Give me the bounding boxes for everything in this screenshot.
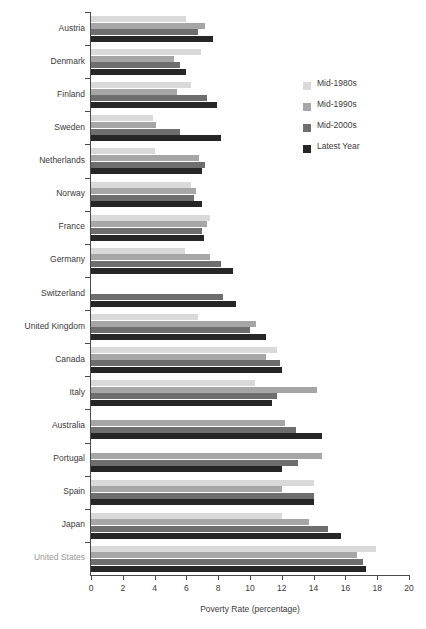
bar-mid-1980s bbox=[91, 480, 314, 486]
y-tick bbox=[85, 78, 90, 79]
category-label-switzerland: Switzerland bbox=[0, 288, 85, 298]
y-tick bbox=[85, 277, 90, 278]
bar-latest-year bbox=[91, 168, 202, 174]
bar-mid-1980s bbox=[91, 215, 210, 221]
bar-mid-2000s bbox=[91, 228, 202, 234]
bar-mid-1980s bbox=[91, 115, 153, 121]
y-tick bbox=[85, 211, 90, 212]
bar-mid-1990s bbox=[91, 188, 196, 194]
bar-latest-year bbox=[91, 533, 341, 539]
bar-mid-2000s bbox=[91, 526, 328, 532]
bar-mid-1980s bbox=[91, 513, 282, 519]
bar-mid-1990s bbox=[91, 519, 309, 525]
bar-mid-1990s bbox=[91, 486, 282, 492]
legend-label: Mid-2000s bbox=[317, 120, 357, 130]
bar-mid-2000s bbox=[91, 162, 205, 168]
x-tick-label: 0 bbox=[79, 583, 103, 593]
y-tick bbox=[85, 476, 90, 477]
bar-mid-1990s bbox=[91, 89, 177, 95]
category-label-denmark: Denmark bbox=[0, 56, 85, 66]
bar-mid-2000s bbox=[91, 460, 298, 466]
bar-mid-2000s bbox=[91, 427, 296, 433]
bar-mid-1990s bbox=[91, 56, 174, 62]
x-tick-label: 16 bbox=[333, 583, 357, 593]
x-tick bbox=[409, 575, 410, 580]
y-tick bbox=[85, 178, 90, 179]
category-label-france: France bbox=[0, 221, 85, 231]
bar-latest-year bbox=[91, 433, 322, 439]
bar-latest-year bbox=[91, 135, 221, 141]
bar-latest-year bbox=[91, 334, 266, 340]
bar-mid-2000s bbox=[91, 95, 207, 101]
bar-mid-1980s bbox=[91, 16, 186, 22]
y-tick bbox=[85, 409, 90, 410]
legend-swatch bbox=[303, 103, 311, 111]
bar-mid-2000s bbox=[91, 327, 250, 333]
x-tick bbox=[123, 575, 124, 580]
category-label-united-kingdom: United Kingdom bbox=[0, 321, 85, 331]
bar-mid-1980s bbox=[91, 546, 376, 552]
bar-mid-1990s bbox=[91, 387, 317, 393]
bar-mid-2000s bbox=[91, 29, 198, 35]
bar-mid-1980s bbox=[91, 248, 185, 254]
legend-swatch bbox=[303, 82, 311, 90]
bar-latest-year bbox=[91, 566, 366, 572]
category-label-netherlands: Netherlands bbox=[0, 155, 85, 165]
x-tick-label: 12 bbox=[270, 583, 294, 593]
bar-mid-1990s bbox=[91, 254, 210, 260]
x-tick bbox=[218, 575, 219, 580]
bar-latest-year bbox=[91, 235, 204, 241]
x-tick-label: 10 bbox=[238, 583, 262, 593]
bar-mid-1980s bbox=[91, 380, 255, 386]
bar-mid-1990s bbox=[91, 122, 156, 128]
bar-mid-2000s bbox=[91, 360, 280, 366]
bar-mid-1990s bbox=[91, 552, 357, 558]
bar-latest-year bbox=[91, 268, 233, 274]
bar-latest-year bbox=[91, 466, 282, 472]
bar-latest-year bbox=[91, 36, 213, 42]
x-axis-title: Poverty Rate (percentage) bbox=[91, 604, 409, 614]
legend-label: Mid-1990s bbox=[317, 99, 357, 109]
y-tick bbox=[85, 111, 90, 112]
poverty-rate-bar-chart: 02468101214161820 AustriaDenmarkFinlandS… bbox=[0, 0, 426, 629]
y-tick bbox=[85, 144, 90, 145]
x-tick bbox=[155, 575, 156, 580]
bar-latest-year bbox=[91, 301, 236, 307]
x-tick-label: 2 bbox=[111, 583, 135, 593]
x-tick-label: 18 bbox=[365, 583, 389, 593]
bar-mid-2000s bbox=[91, 559, 363, 565]
bar-mid-2000s bbox=[91, 195, 194, 201]
bar-mid-1990s bbox=[91, 155, 199, 161]
bar-latest-year bbox=[91, 367, 282, 373]
bar-mid-1980s bbox=[91, 82, 191, 88]
y-tick bbox=[85, 12, 90, 13]
category-label-canada: Canada bbox=[0, 354, 85, 364]
x-tick bbox=[186, 575, 187, 580]
legend-label: Latest Year bbox=[317, 141, 360, 151]
x-tick bbox=[377, 575, 378, 580]
category-label-spain: Spain bbox=[0, 486, 85, 496]
bar-mid-2000s bbox=[91, 129, 180, 135]
bar-latest-year bbox=[91, 201, 202, 207]
plot-area bbox=[91, 12, 409, 575]
legend-swatch bbox=[303, 124, 311, 132]
x-tick bbox=[282, 575, 283, 580]
x-tick bbox=[345, 575, 346, 580]
x-tick bbox=[91, 575, 92, 580]
bar-mid-1980s bbox=[91, 314, 198, 320]
category-label-italy: Italy bbox=[0, 387, 85, 397]
bar-latest-year bbox=[91, 102, 217, 108]
bar-mid-2000s bbox=[91, 62, 180, 68]
bar-latest-year bbox=[91, 69, 186, 75]
y-tick bbox=[85, 310, 90, 311]
bar-mid-2000s bbox=[91, 261, 221, 267]
category-label-sweden: Sweden bbox=[0, 122, 85, 132]
category-label-norway: Norway bbox=[0, 188, 85, 198]
bar-mid-1990s bbox=[91, 321, 256, 327]
y-tick bbox=[85, 443, 90, 444]
category-label-portugal: Portugal bbox=[0, 453, 85, 463]
y-tick bbox=[85, 343, 90, 344]
category-label-japan: Japan bbox=[0, 519, 85, 529]
bar-mid-1990s bbox=[91, 354, 266, 360]
category-label-australia: Australia bbox=[0, 420, 85, 430]
